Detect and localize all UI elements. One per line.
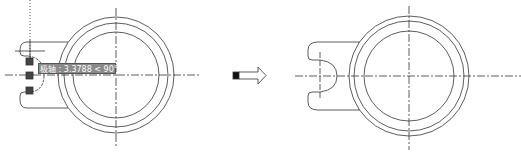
drawing-canvas — [0, 0, 521, 153]
polar-tooltip: 极轴 : 3.3788 < 90° — [38, 63, 116, 74]
after-drawing — [295, 6, 521, 150]
tooltip-value: 3.3788 — [64, 65, 92, 74]
grip-bottom[interactable] — [26, 87, 33, 94]
tooltip-angle: < 90° — [94, 65, 117, 74]
grip-top[interactable] — [26, 58, 33, 65]
right-arrow-icon — [233, 67, 266, 84]
grip-mid[interactable] — [26, 72, 33, 79]
tooltip-label: 极轴 — [40, 65, 56, 74]
